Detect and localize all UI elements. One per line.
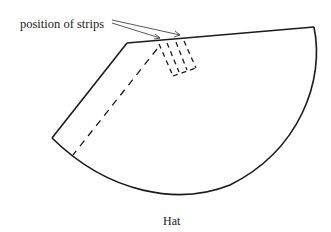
- hat-outline: [52, 27, 316, 194]
- strip-markers: [159, 41, 196, 76]
- dashed-seam: [73, 49, 157, 155]
- hat-pattern-diagram: [0, 0, 331, 232]
- left-edge: [52, 43, 127, 138]
- bottom-arc: [52, 27, 316, 194]
- annotation-arrows: [112, 20, 180, 39]
- arrow-line-2: [112, 20, 180, 35]
